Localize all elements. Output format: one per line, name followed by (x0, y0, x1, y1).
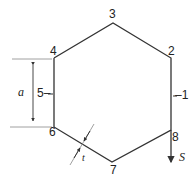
force-label-s: S (179, 151, 185, 163)
midpoint-label-1: –1 (175, 89, 188, 101)
vertex-label-6: 6 (49, 126, 56, 138)
thickness-arrow-upper (84, 131, 90, 141)
thickness-label-t: t (82, 152, 85, 164)
dimension-label-a: a (18, 86, 24, 98)
vertex-label-2: 2 (168, 45, 175, 57)
vertex-label-8: 8 (172, 131, 179, 143)
thickness-arrow-lower (74, 148, 80, 158)
vertex-label-4: 4 (50, 45, 57, 57)
vertex-label-7: 7 (110, 164, 117, 176)
vertex-label-3: 3 (109, 8, 116, 20)
hexagon-diagram: 3 2 8 7 6 4 –1 5– a t S (0, 0, 194, 182)
diagram-canvas (0, 0, 194, 182)
midpoint-label-5: 5– (37, 87, 50, 99)
hexagon-outline (54, 23, 171, 162)
